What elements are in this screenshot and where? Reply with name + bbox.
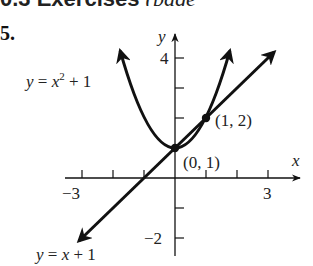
tick-label-x-3: 3 — [263, 184, 272, 203]
point-0-1 — [171, 144, 179, 152]
y-axis-label: y — [156, 27, 166, 46]
point-1-2 — [202, 114, 210, 122]
graph: y x −3 3 4 −2 (1, 2) (0, 1) y = x2 + 1 y… — [0, 0, 313, 266]
line-equation-label: y = x + 1 — [34, 245, 96, 264]
point-label-1-2: (1, 2) — [215, 111, 252, 130]
tick-label-y-neg2: −2 — [144, 229, 162, 248]
parabola-equation-label: y = x2 + 1 — [24, 70, 91, 91]
point-label-0-1: (0, 1) — [183, 153, 220, 172]
x-axis-label: x — [291, 151, 300, 170]
tick-label-y-4: 4 — [160, 49, 169, 68]
tick-label-x-neg3: −3 — [62, 184, 80, 203]
